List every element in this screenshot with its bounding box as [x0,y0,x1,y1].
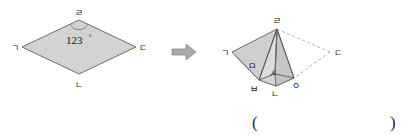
vertex-label-right-d: ㄷ [334,48,342,58]
dashed-edge-r-d [277,29,330,52]
transform-arrow-group [172,44,196,60]
answer-paren-open: ( [252,113,258,132]
angle-value: 123 [66,34,83,46]
vertex-label-left-g: ㄱ [11,43,19,53]
vertex-label-right-g: ㄱ [221,48,229,58]
vertex-label-right-o: ㅇ [292,81,300,91]
right-solid-group: ㄱ ㄹ ㄷ ㅁ ㅅ ㅂ ㄴ ㅇ [221,16,342,99]
dashed-edge-d-o [294,52,330,78]
rhombus-shape [22,20,136,74]
left-rhombus-group: 123 ° ㄱ ㄹ ㄷ ㄴ [11,8,147,90]
vertex-label-right-b: ㅂ [250,84,258,94]
geometry-illustration: 123 ° ㄱ ㄹ ㄷ ㄴ [0,0,401,135]
vertex-label-right-m: ㅁ [248,61,256,71]
vertex-label-right-s: ㅅ [269,68,277,78]
right-arrow-icon [172,44,196,60]
vertex-label-right-r: ㄹ [273,16,281,26]
vertex-label-left-n: ㄴ [75,80,83,90]
problem-figure-page: 123 ° ㄱ ㄹ ㄷ ㄴ [0,0,401,135]
answer-input-area[interactable] [258,112,388,132]
answer-field-group[interactable]: ( ) [252,112,396,132]
vertex-label-right-n: ㄴ [271,89,279,99]
vertex-label-left-d: ㄷ [139,43,147,53]
answer-paren-close: ) [390,113,396,132]
vertex-label-left-r: ㄹ [75,8,83,18]
